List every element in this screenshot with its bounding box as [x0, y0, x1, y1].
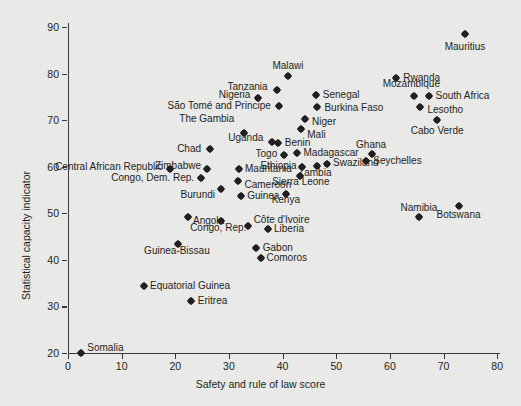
data-point-label: Chad	[177, 144, 201, 155]
x-tick-label: 50	[321, 361, 351, 372]
y-tick-mark	[62, 213, 67, 214]
y-axis-line	[68, 23, 69, 354]
data-point[interactable]	[273, 86, 281, 94]
data-point-label: Burkina Faso	[324, 103, 383, 114]
y-tick-label: 70	[33, 115, 59, 125]
data-point-label: São Tomé and Principe	[168, 101, 271, 112]
data-point-label: Eritrea	[198, 296, 227, 307]
data-point[interactable]	[197, 174, 205, 182]
data-point[interactable]	[284, 72, 292, 80]
data-point-label: Central African Republic	[55, 161, 162, 172]
data-point-label: Senegal	[323, 90, 360, 101]
x-tick-mark	[336, 354, 337, 359]
data-point-label: Burundi	[181, 189, 215, 200]
data-point-label: Malawi	[272, 60, 303, 71]
y-tick-label: 40	[33, 255, 59, 265]
data-point[interactable]	[77, 349, 85, 357]
x-axis-line	[68, 353, 500, 354]
x-tick-label: 80	[482, 361, 512, 372]
data-point[interactable]	[203, 165, 211, 173]
data-point-label: Swaziland	[333, 158, 379, 169]
data-point[interactable]	[292, 148, 300, 156]
data-point-label: Mauritania	[245, 164, 292, 175]
data-point[interactable]	[263, 225, 271, 233]
y-tick-mark	[62, 353, 67, 354]
data-point[interactable]	[274, 139, 282, 147]
x-tick-label: 10	[107, 361, 137, 372]
data-point-label: Congo, Dem. Rep.	[111, 173, 194, 184]
y-tick-mark	[62, 27, 67, 28]
data-point-label: Nigeria	[219, 90, 251, 101]
data-point[interactable]	[205, 145, 213, 153]
y-tick-label: 50	[33, 208, 59, 218]
data-point-label: Guinea-Bissau	[144, 246, 210, 257]
y-tick-label: 20	[33, 348, 59, 358]
y-tick-mark	[62, 260, 67, 261]
y-tick-label: 90	[33, 22, 59, 32]
y-tick-mark	[62, 120, 67, 121]
data-point-label: Namibia	[401, 203, 438, 214]
data-point[interactable]	[256, 254, 264, 262]
chart-figure: 2030405060708090 01020304050607080 Mauri…	[0, 0, 521, 406]
y-tick-label: 80	[33, 69, 59, 79]
data-point-label: Mozambique	[383, 79, 440, 90]
data-point[interactable]	[461, 29, 469, 37]
x-tick-label: 0	[53, 361, 83, 372]
data-point-label: Uganda	[228, 133, 263, 144]
data-point[interactable]	[217, 185, 225, 193]
x-tick-mark	[390, 354, 391, 359]
data-point-label: Seychelles	[373, 155, 421, 166]
x-tick-mark	[497, 354, 498, 359]
data-point-label: Ghana	[356, 140, 386, 151]
y-tick-mark	[62, 74, 67, 75]
x-tick-label: 30	[214, 361, 244, 372]
y-axis-title: Statistical capacity indicator	[20, 171, 32, 300]
data-point-label: Guinea	[247, 190, 279, 201]
x-tick-mark	[283, 354, 284, 359]
data-point[interactable]	[301, 115, 309, 123]
scatter-plot-area: 2030405060708090 01020304050607080 Mauri…	[0, 0, 521, 406]
data-point[interactable]	[297, 125, 305, 133]
data-point[interactable]	[275, 102, 283, 110]
y-tick-mark	[62, 306, 67, 307]
y-tick-label: 30	[33, 301, 59, 311]
data-point-label: Lesotho	[427, 105, 463, 116]
x-tick-mark	[68, 354, 69, 359]
data-point[interactable]	[187, 297, 195, 305]
x-tick-label: 40	[268, 361, 298, 372]
data-point-label: Cabo Verde	[411, 126, 464, 137]
x-tick-label: 20	[160, 361, 190, 372]
data-point[interactable]	[313, 103, 321, 111]
x-tick-mark	[444, 354, 445, 359]
data-point[interactable]	[433, 115, 441, 123]
data-point[interactable]	[424, 92, 432, 100]
data-point[interactable]	[139, 282, 147, 290]
data-point-label: Togo	[256, 148, 278, 159]
data-point[interactable]	[252, 244, 260, 252]
data-point[interactable]	[183, 213, 191, 221]
data-point-label: Congo, Rep.	[190, 223, 246, 234]
data-point-label: Niger	[312, 117, 336, 128]
data-point[interactable]	[312, 91, 320, 99]
data-point[interactable]	[237, 191, 245, 199]
data-point[interactable]	[416, 102, 424, 110]
data-point[interactable]	[233, 176, 241, 184]
x-tick-mark	[122, 354, 123, 359]
x-axis-title: Safety and rule of law score	[0, 378, 521, 390]
data-point-label: Botswana	[437, 210, 481, 221]
data-point-label: Equatorial Guinea	[150, 281, 230, 292]
data-point-label: Zimbabwe	[155, 161, 201, 172]
data-point[interactable]	[280, 150, 288, 158]
data-point[interactable]	[415, 212, 423, 220]
data-point-label: South Africa	[436, 91, 490, 102]
data-point-label: Somalia	[87, 343, 123, 354]
x-tick-label: 70	[429, 361, 459, 372]
x-tick-mark	[229, 354, 230, 359]
data-point-label: Mauritius	[445, 41, 486, 52]
data-point-label: Comoros	[267, 253, 308, 264]
data-point[interactable]	[409, 92, 417, 100]
data-point-label: The Gambia	[179, 114, 234, 125]
data-point[interactable]	[234, 165, 242, 173]
x-tick-mark	[175, 354, 176, 359]
x-tick-label: 60	[375, 361, 405, 372]
